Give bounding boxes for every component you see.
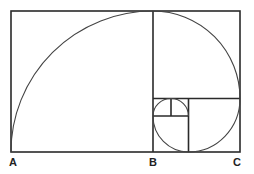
label-a: A (9, 157, 17, 168)
outer-rectangle (11, 11, 240, 152)
label-b: B (149, 157, 157, 168)
spiral-curve (11, 11, 240, 152)
label-c: C (233, 157, 241, 168)
golden-spiral-diagram (0, 0, 254, 174)
